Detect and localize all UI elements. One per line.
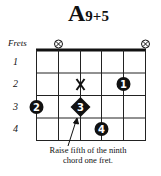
nut — [36, 49, 146, 52]
svg-text:1: 1 — [120, 79, 127, 90]
svg-text:3: 3 — [77, 102, 84, 113]
caption: Raise fifth of the ninth chord one fret. — [38, 145, 138, 165]
finger-marker-4: 4 — [95, 122, 109, 136]
svg-text:2: 2 — [33, 102, 40, 113]
finger-marker-2: 2 — [30, 100, 44, 114]
caption-line-2: chord one fret. — [38, 155, 138, 165]
finger-marker-1: 1 — [117, 77, 131, 91]
muted-string-icon — [142, 40, 150, 48]
muted-string-icon — [55, 40, 63, 48]
finger-marker-3-diamond: 3 — [71, 97, 91, 117]
arrow-icon — [68, 118, 79, 146]
caption-line-1: Raise fifth of the ninth — [38, 145, 138, 155]
svg-text:4: 4 — [98, 124, 105, 135]
